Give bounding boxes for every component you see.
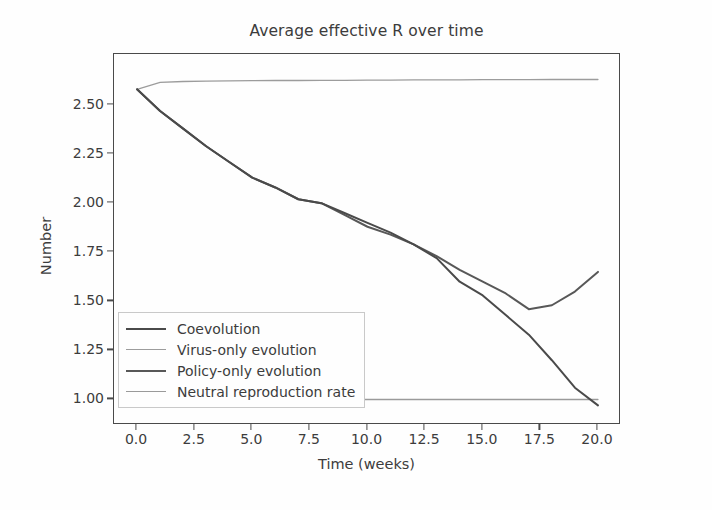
legend-item[interactable]: Virus-only evolution bbox=[126, 339, 355, 360]
series-line bbox=[137, 80, 598, 90]
legend-label: Coevolution bbox=[177, 322, 260, 336]
x-tick-label: 10.0 bbox=[351, 431, 382, 447]
y-tick-label: 2.00 bbox=[73, 194, 104, 210]
y-tick-mark bbox=[107, 153, 113, 154]
x-tick-label: 20.0 bbox=[581, 431, 612, 447]
y-tick-label: 2.25 bbox=[73, 145, 104, 161]
x-tick-label: 12.5 bbox=[409, 431, 440, 447]
legend-line-swatch bbox=[126, 328, 166, 330]
chart-title: Average effective R over time bbox=[113, 22, 620, 40]
legend-item[interactable]: Neutral reproduction rate bbox=[126, 381, 355, 402]
x-tick-label: 0.0 bbox=[125, 431, 147, 447]
legend-label: Virus-only evolution bbox=[177, 343, 317, 357]
legend-item[interactable]: Coevolution bbox=[126, 318, 355, 339]
y-tick-mark bbox=[107, 398, 113, 399]
y-tick-label: 1.50 bbox=[73, 292, 104, 308]
y-tick-mark bbox=[107, 251, 113, 252]
y-tick-mark bbox=[107, 300, 113, 301]
x-tick-mark bbox=[135, 424, 136, 430]
chart-figure: Average effective R over time Number 1.0… bbox=[0, 0, 712, 510]
x-tick-mark bbox=[366, 424, 367, 430]
x-tick-label: 17.5 bbox=[524, 431, 555, 447]
y-axis-tick-labels: 1.001.251.501.752.002.252.50 bbox=[40, 0, 104, 510]
legend-label: Neutral reproduction rate bbox=[177, 385, 355, 399]
x-axis-label: Time (weeks) bbox=[113, 456, 620, 472]
y-tick-label: 1.25 bbox=[73, 341, 104, 357]
legend-line-swatch bbox=[126, 391, 166, 392]
series-line bbox=[137, 89, 598, 309]
chart-legend: CoevolutionVirus-only evolutionPolicy-on… bbox=[118, 312, 365, 408]
y-tick-label: 2.50 bbox=[73, 96, 104, 112]
x-tick-mark bbox=[193, 424, 194, 430]
x-tick-label: 5.0 bbox=[240, 431, 262, 447]
x-tick-mark bbox=[481, 424, 482, 430]
x-tick-mark bbox=[539, 424, 540, 430]
x-tick-mark bbox=[251, 424, 252, 430]
y-tick-mark bbox=[107, 349, 113, 350]
x-tick-mark bbox=[596, 424, 597, 430]
x-tick-mark bbox=[424, 424, 425, 430]
y-tick-mark bbox=[107, 202, 113, 203]
x-tick-label: 15.0 bbox=[466, 431, 497, 447]
x-tick-mark bbox=[308, 424, 309, 430]
x-tick-label: 7.5 bbox=[298, 431, 320, 447]
legend-label: Policy-only evolution bbox=[177, 364, 321, 378]
legend-line-swatch bbox=[126, 349, 166, 350]
y-tick-label: 1.75 bbox=[73, 243, 104, 259]
x-tick-label: 2.5 bbox=[183, 431, 205, 447]
y-tick-mark bbox=[107, 103, 113, 104]
legend-line-swatch bbox=[126, 370, 166, 372]
y-tick-label: 1.00 bbox=[73, 390, 104, 406]
legend-item[interactable]: Policy-only evolution bbox=[126, 360, 355, 381]
